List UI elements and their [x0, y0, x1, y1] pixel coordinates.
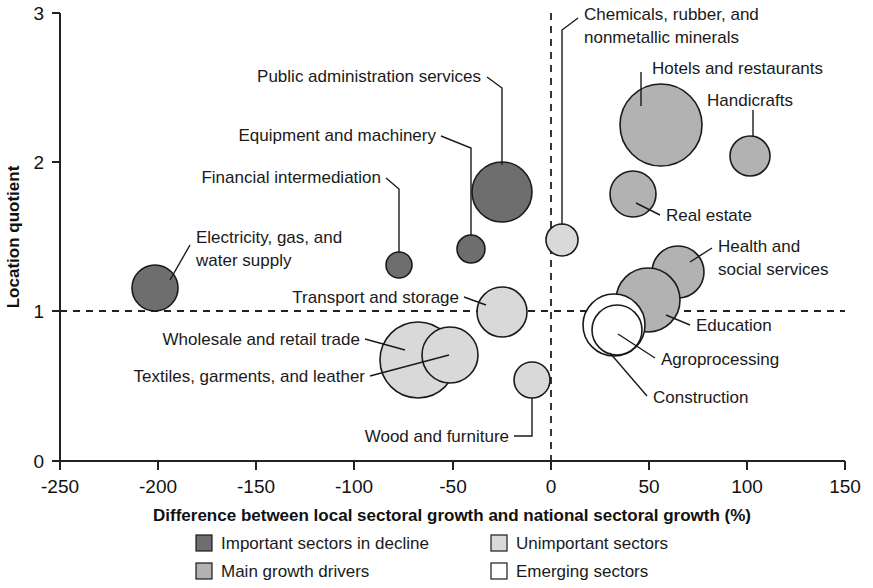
- x-tick-label--50: -50: [439, 476, 466, 497]
- x-tick-label--200: -200: [139, 476, 177, 497]
- annotation-textiles: Textiles, garments, and leather: [133, 367, 365, 386]
- y-tick-label-2: 2: [33, 152, 44, 173]
- x-tick-label-0: 0: [546, 476, 557, 497]
- bubble-financial-intermediation[interactable]: [386, 252, 412, 278]
- leader-chemicals: [562, 18, 578, 225]
- annotation-financial: Financial intermediation: [201, 168, 381, 187]
- annotation-electricity-line2: water supply: [195, 251, 292, 270]
- legend-label-main-growth-drivers: Main growth drivers: [221, 562, 369, 581]
- annotation-agroprocessing: Agroprocessing: [661, 350, 779, 369]
- annotation-chemicals-line2: nonmetallic minerals: [584, 28, 739, 47]
- y-axis-title: Location quotient: [4, 165, 23, 308]
- legend: Important sectors in decline Unimportant…: [196, 534, 668, 581]
- annotation-construction: Construction: [653, 388, 748, 407]
- legend-swatch-emerging-sectors: [491, 563, 507, 579]
- legend-swatch-main-growth-drivers: [196, 563, 212, 579]
- leader-equipment: [441, 136, 471, 236]
- bubble-agroprocessing[interactable]: [592, 305, 642, 355]
- annotation-health-line2: social services: [718, 260, 829, 279]
- annotation-chemicals-line1: Chemicals, rubber, and: [584, 5, 759, 24]
- annotation-hotels: Hotels and restaurants: [652, 59, 823, 78]
- y-tick-label-1: 1: [33, 301, 44, 322]
- bubble-chart: 3 2 1 0 -250 -200 -150 -100 -50 0 50 100…: [0, 0, 873, 588]
- leader-financial: [386, 178, 399, 253]
- bubble-textiles-garments-leather[interactable]: [422, 327, 478, 383]
- x-axis-title: Difference between local sectoral growth…: [153, 506, 751, 525]
- annotation-wholesale: Wholesale and retail trade: [162, 330, 360, 349]
- annotation-public-administration: Public administration services: [257, 67, 481, 86]
- annotation-health-line1: Health and: [718, 237, 800, 256]
- annotation-labels: Electricity, gas, and water supply Publi…: [133, 5, 828, 446]
- legend-label-important-sectors-in-decline: Important sectors in decline: [221, 534, 429, 553]
- bubble-transport-and-storage[interactable]: [477, 287, 527, 337]
- legend-swatch-important-sectors-in-decline: [196, 535, 212, 551]
- x-tick-label--150: -150: [237, 476, 275, 497]
- leader-wood: [514, 398, 532, 436]
- annotation-real-estate: Real estate: [666, 206, 752, 225]
- legend-label-unimportant-sectors: Unimportant sectors: [516, 534, 668, 553]
- y-tick-label-3: 3: [33, 3, 44, 24]
- legend-swatch-unimportant-sectors: [491, 535, 507, 551]
- annotation-education: Education: [696, 316, 772, 335]
- bubble-hotels-and-restaurants[interactable]: [620, 84, 702, 166]
- leader-electricity: [170, 245, 190, 280]
- x-tick-label-100: 100: [731, 476, 763, 497]
- legend-label-emerging-sectors: Emerging sectors: [516, 562, 648, 581]
- annotation-transport: Transport and storage: [292, 288, 459, 307]
- x-tick-label--100: -100: [335, 476, 373, 497]
- x-tick-label-150: 150: [829, 476, 861, 497]
- annotation-handicrafts: Handicrafts: [707, 91, 793, 110]
- x-tick-label--250: -250: [41, 476, 79, 497]
- bubble-chemicals-rubber-nonmetallic-minerals[interactable]: [546, 224, 578, 256]
- bubble-public-administration-services[interactable]: [472, 162, 532, 222]
- bubble-wood-and-furniture[interactable]: [514, 362, 550, 398]
- y-tick-label-0: 0: [33, 451, 44, 472]
- bubble-equipment-and-machinery[interactable]: [457, 235, 485, 263]
- annotation-wood: Wood and furniture: [365, 427, 509, 446]
- bubble-handicrafts[interactable]: [730, 136, 770, 176]
- leader-construction: [610, 353, 647, 396]
- annotation-equipment: Equipment and machinery: [238, 126, 436, 145]
- x-tick-label-50: 50: [638, 476, 659, 497]
- annotation-electricity-line1: Electricity, gas, and: [196, 228, 342, 247]
- bubble-electricity-gas-water-supply[interactable]: [132, 265, 178, 311]
- leader-public-administration: [487, 77, 502, 165]
